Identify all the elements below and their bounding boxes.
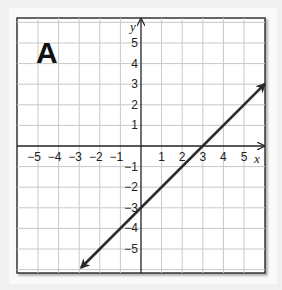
x-axis-label: x	[253, 151, 260, 166]
y-tick-label: −1	[124, 160, 138, 174]
x-tick-label: −1	[110, 150, 124, 164]
x-tick-label: 2	[179, 150, 186, 164]
coordinate-plane: −5−4−3−2−11234554321−1−2−3−4−5 A x y	[0, 0, 282, 290]
y-axis-label: y	[128, 19, 136, 34]
x-tick-label: 5	[241, 150, 248, 164]
x-tick-label: −2	[89, 150, 103, 164]
y-tick-label: 2	[131, 98, 138, 112]
y-tick-label: −2	[124, 180, 138, 194]
panel-label: A	[36, 36, 58, 69]
x-tick-label: 4	[220, 150, 227, 164]
y-tick-label: 3	[131, 77, 138, 91]
x-tick-label: −5	[27, 150, 41, 164]
y-tick-label: 5	[131, 36, 138, 50]
x-tick-label: 3	[199, 150, 206, 164]
y-tick-label: 1	[131, 118, 138, 132]
x-tick-label: −4	[48, 150, 62, 164]
x-tick-label: 1	[158, 150, 165, 164]
y-tick-label: −5	[124, 242, 138, 256]
x-tick-label: −3	[68, 150, 82, 164]
y-tick-label: 4	[131, 57, 138, 71]
